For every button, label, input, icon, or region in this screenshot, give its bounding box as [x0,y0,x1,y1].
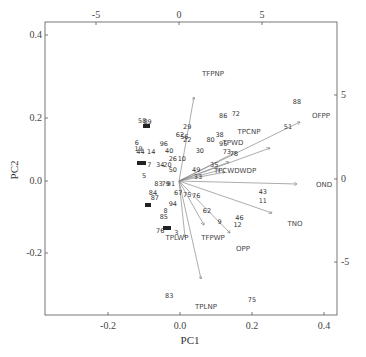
x-tick-label: 0.4 [318,320,331,331]
observation-label: 72 [232,110,240,118]
observation-label: 35 [210,161,218,169]
observation-label: 91 [167,180,175,188]
observation-label: 94 [169,200,177,208]
y-tick-label: -0.2 [26,247,42,258]
observation-label: 88 [293,98,301,106]
observation-label: 95 [219,140,227,148]
observation-label: 85 [160,213,168,221]
observation-label: 75 [183,191,191,199]
var-label: TPCNP [237,128,261,136]
observation-label: 62 [203,207,211,215]
right-tick-label: 5 [341,89,346,100]
x-tick-label: 0.0 [174,320,187,331]
observation-label: 10 [178,155,186,163]
var-label: TNO [286,220,303,228]
top-tick-label: 5 [260,9,265,20]
var-label: TFPWP [200,234,225,242]
observation-labels: 8851867229388095737830625622588961914449… [134,98,301,304]
observation-label: 51 [284,123,292,131]
top-tick-label: -5 [92,9,100,20]
var-label: OND [316,181,332,189]
observation-label: 86 [219,112,227,120]
observation-label: 75 [248,296,256,304]
observation-label: 11 [259,197,267,205]
observation-label: 44 [136,148,144,156]
x-tick-label: 0.2 [246,320,259,331]
observation-label: 40 [165,147,173,155]
observation-label: 9 [218,218,222,226]
biplot-chart: -0.2 0.0 0.2 0.4 PC1 0.4 0.2 0.0 -0.2 PC… [0,0,366,357]
top-tick-label: 0 [177,9,182,20]
x-tick-label: -0.2 [100,320,116,331]
bottom-axis: -0.2 0.0 0.2 0.4 PC1 [100,312,330,346]
observation-label: 33 [194,173,202,181]
observation-label: 7 [147,161,151,169]
observation-label: 12 [233,221,241,229]
observation-label: 43 [259,188,267,196]
observation-label: 5 [142,172,146,180]
right-tick-label: -5 [341,256,349,267]
y-axis-title: PC2 [8,161,20,180]
var-label: TPCWDWDP [213,167,256,175]
observation-label: 30 [196,147,204,155]
observation-label: 49 [192,166,200,174]
observation-label: 14 [147,148,155,156]
observation-label: 78 [230,150,238,158]
plot-frame [45,22,337,315]
observation-label: 38 [215,131,223,139]
observation-label: 76 [192,192,200,200]
top-axis: -5 0 5 [92,9,265,25]
arrow-ond [179,181,297,184]
observation-label: 87 [151,194,159,202]
observation-label: 67 [174,189,182,197]
var-label: OFPP [312,112,330,120]
observation-label: 50 [169,166,177,174]
x-axis-title: PC1 [181,334,200,346]
var-label: OPP [236,245,250,253]
observation-label: 80 [206,136,214,144]
observation-label: 83 [165,292,173,300]
var-label: TFPNP [201,70,224,78]
y-tick-label: 0.4 [30,29,43,40]
y-tick-label: 0.0 [30,175,43,186]
y-tick-label: 0.2 [30,112,43,123]
right-tick-label: 0 [341,173,346,184]
observation-label: 3 [174,229,178,237]
right-axis: 5 0 -5 [334,89,349,267]
var-label: TPLNP [194,303,217,311]
left-axis: 0.4 0.2 0.0 -0.2 PC2 [8,29,48,258]
observation-label: 29 [183,123,191,131]
observation-label: 22 [183,136,191,144]
